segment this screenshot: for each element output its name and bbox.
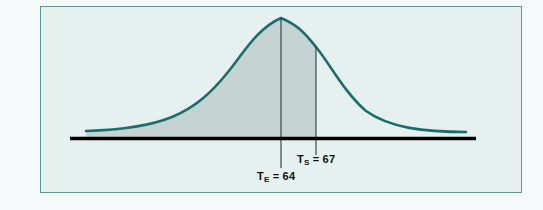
- marker-label-te-symbol: T: [257, 170, 264, 182]
- marker-label-ts: TS = 67: [297, 153, 335, 165]
- marker-label-te-value: 64: [283, 170, 296, 182]
- marker-label-ts-value: 67: [323, 153, 336, 165]
- figure-root: TS = 67 TE = 64: [0, 0, 543, 210]
- chart-panel: [40, 6, 522, 193]
- marker-label-ts-subscript: S: [304, 158, 310, 167]
- marker-label-ts-symbol: T: [297, 153, 304, 165]
- marker-label-te-equals: =: [269, 170, 282, 182]
- marker-label-te-subscript: E: [264, 175, 270, 184]
- marker-label-te: TE = 64: [257, 170, 295, 182]
- marker-label-ts-equals: =: [309, 153, 322, 165]
